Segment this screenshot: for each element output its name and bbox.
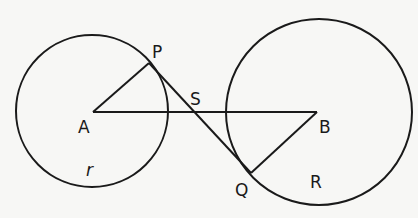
label-a: A [78, 117, 90, 137]
label-r-large: R [310, 172, 322, 192]
segment-ap [93, 63, 149, 112]
segment-pq [149, 63, 251, 173]
label-b: B [319, 117, 331, 137]
geometry-diagram: P S A r B Q R [0, 0, 418, 218]
label-p: P [152, 42, 162, 62]
segment-bq [251, 112, 317, 173]
label-r-small: r [86, 160, 94, 180]
label-q: Q [235, 180, 248, 200]
label-s: S [190, 89, 201, 109]
